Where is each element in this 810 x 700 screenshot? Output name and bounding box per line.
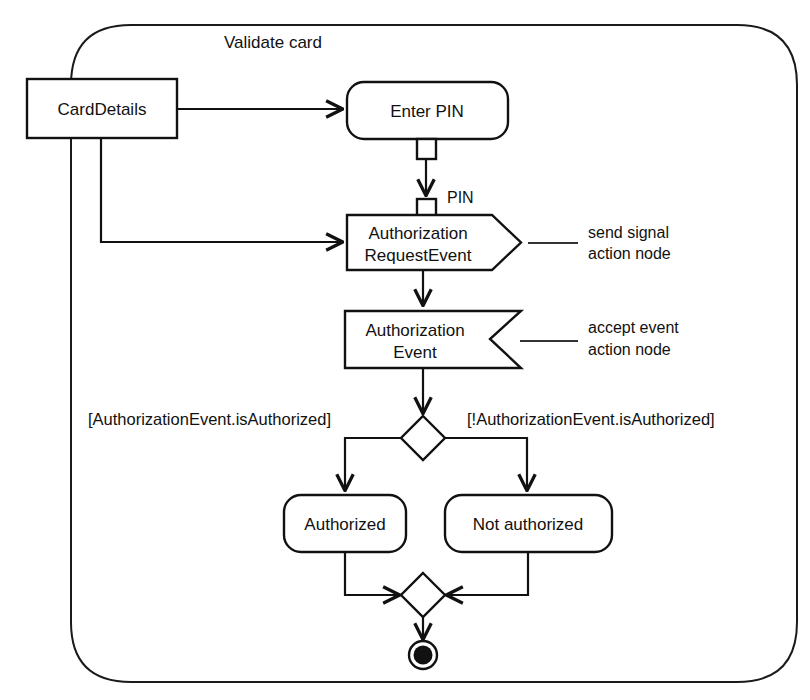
edge-not-authorized-to-merge [448,552,528,595]
guard-label-not-authorized: [!AuthorizationEvent.isAuthorized] [467,410,715,428]
annotation-send-signal-line2: action node [588,245,671,262]
node-send-signal-label-line1: Authorization [368,224,467,243]
edge-decision-to-not-authorized [445,438,527,489]
activity-final-node [409,641,437,669]
edge-authorized-to-merge [345,552,398,595]
output-pin-enter-pin [417,139,436,159]
merge-node[interactable] [401,573,445,617]
edge-decision-to-authorized [345,438,401,489]
diagram-canvas: Validate card CardDetails Enter PIN PIN [0,0,810,700]
annotation-accept-event-line1: accept event [588,319,679,336]
activity-diagram-svg: Validate card CardDetails Enter PIN PIN [0,0,810,700]
node-send-signal-label-line2: RequestEvent [365,246,472,265]
frame-label: Validate card [224,33,322,52]
annotation-accept-event-line2: action node [588,341,671,358]
annotation-send-signal-line1: send signal [588,224,669,241]
guard-label-authorized: [AuthorizationEvent.isAuthorized] [88,410,331,428]
edge-carddetails-to-authrequest [101,138,341,242]
node-card-details-label: CardDetails [58,100,147,119]
node-accept-event-label-line2: Event [393,343,437,362]
decision-node[interactable] [401,416,445,460]
node-enter-pin-label: Enter PIN [390,102,464,121]
pin-label: PIN [447,189,474,206]
node-not-authorized-label: Not authorized [473,515,584,534]
node-authorized-label: Authorized [304,515,385,534]
node-accept-event-label-line1: Authorization [365,321,464,340]
